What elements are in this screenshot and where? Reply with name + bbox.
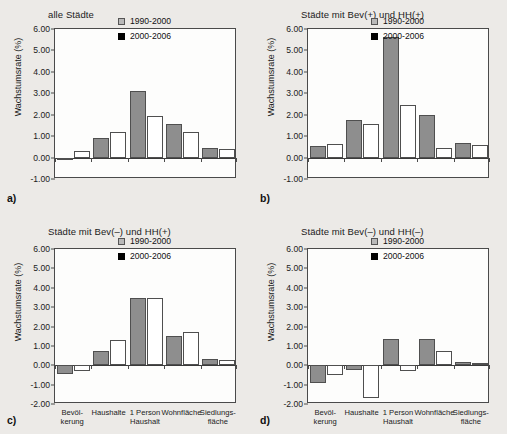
- y-tick-mark: [304, 249, 308, 250]
- bar-d-2-series1: [400, 365, 416, 371]
- x-tick-mark: [236, 158, 237, 162]
- y-tick-label: 3.00: [33, 302, 50, 312]
- y-tick-label: 6.00: [286, 24, 303, 34]
- y-tick-mark: [51, 307, 55, 308]
- y-axis-label-d: Wachstumsrate (%): [266, 242, 276, 362]
- y-tick-mark: [304, 307, 308, 308]
- legend-item-1: 2000-2006: [118, 251, 171, 261]
- y-tick-label: 2.00: [33, 110, 50, 120]
- legend-swatch-icon-0: [118, 238, 125, 245]
- legend-swatch-icon-1: [371, 33, 378, 40]
- chart-panel-a: alle Städtea)Wachstumsrate (%)6.005.004.…: [0, 0, 253, 217]
- y-tick-label: 2.00: [33, 322, 50, 332]
- y-tick-label: 1.00: [33, 341, 50, 351]
- y-tick-mark: [304, 287, 308, 288]
- y-axis-label-a: Wachstumsrate (%): [13, 17, 23, 137]
- x-tick-mark: [381, 365, 382, 369]
- legend-item-0: 1990-2000: [371, 16, 424, 26]
- y-tick-label: -1.00: [283, 380, 303, 390]
- y-tick-label: 3.00: [286, 302, 303, 312]
- bar-d-0-series1: [327, 365, 343, 375]
- y-tick-label: -1.00: [30, 380, 50, 390]
- y-tick-mark: [51, 249, 55, 250]
- bar-d-3-series1: [436, 351, 452, 365]
- bar-c-3-series0: [166, 336, 182, 365]
- y-tick-mark: [51, 93, 55, 94]
- legend-swatch-icon-1: [118, 253, 125, 260]
- y-tick-label: 5.00: [33, 263, 50, 273]
- bar-c-0-series0: [57, 365, 73, 374]
- y-tick-label: -1.00: [283, 174, 303, 184]
- legend-swatch-icon-0: [118, 18, 125, 25]
- bar-a-2-series0: [130, 91, 146, 158]
- figure-panel-grid: alle Städtea)Wachstumsrate (%)6.005.004.…: [0, 0, 507, 434]
- y-tick-mark: [304, 114, 308, 115]
- legend-item-1: 2000-2006: [118, 31, 171, 41]
- y-tick-mark: [51, 50, 55, 51]
- y-tick-mark: [51, 71, 55, 72]
- y-tick-mark: [304, 50, 308, 51]
- y-tick-mark: [51, 114, 55, 115]
- legend-label-0: 1990-2000: [130, 236, 171, 246]
- y-tick-label: 5.00: [286, 45, 303, 55]
- x-tick-mark: [128, 158, 129, 162]
- y-tick-mark: [304, 93, 308, 94]
- y-tick-mark: [304, 326, 308, 327]
- y-tick-label: 6.00: [33, 24, 50, 34]
- y-tick-label: -2.00: [283, 399, 303, 409]
- x-tick-mark: [55, 158, 56, 162]
- bar-d-4-series0: [455, 362, 471, 365]
- y-tick-label: 4.00: [33, 283, 50, 293]
- y-tick-mark: [51, 345, 55, 346]
- y-tick-mark: [304, 71, 308, 72]
- bar-a-3-series1: [183, 132, 199, 158]
- x-tick-mark: [454, 158, 455, 162]
- legend-label-1: 2000-2006: [130, 31, 171, 41]
- legend-swatch-icon-0: [371, 238, 378, 245]
- y-tick-label: -2.00: [30, 399, 50, 409]
- bar-c-4-series0: [202, 359, 218, 365]
- bar-b-4-series1: [472, 145, 488, 157]
- legend-item-0: 1990-2000: [371, 236, 424, 246]
- y-tick-mark: [304, 179, 308, 180]
- bar-a-2-series1: [147, 116, 163, 158]
- y-tick-label: 1.00: [286, 341, 303, 351]
- legend-item-0: 1990-2000: [118, 16, 171, 26]
- x-tick-mark: [308, 158, 309, 162]
- bar-b-3-series0: [419, 115, 435, 157]
- x-category-label-4: Siedlungs- fläche: [196, 408, 240, 426]
- x-tick-mark: [128, 365, 129, 369]
- legend-swatch-icon-0: [371, 18, 378, 25]
- legend-item-1: 2000-2006: [371, 251, 424, 261]
- y-tick-label: 3.00: [286, 88, 303, 98]
- legend-swatch-icon-1: [118, 33, 125, 40]
- bar-b-2-series0: [383, 37, 399, 158]
- x-tick-mark: [417, 365, 418, 369]
- y-tick-label: 6.00: [286, 244, 303, 254]
- legend-label-0: 1990-2000: [383, 236, 424, 246]
- y-tick-label: 2.00: [286, 110, 303, 120]
- bar-d-0-series0: [310, 365, 326, 382]
- y-tick-mark: [51, 29, 55, 30]
- x-tick-mark: [164, 158, 165, 162]
- y-tick-label: 0.00: [286, 360, 303, 370]
- bar-a-0-series1: [74, 151, 90, 158]
- y-tick-label: 1.00: [33, 131, 50, 141]
- zero-baseline: [55, 158, 235, 159]
- x-category-label-4: Siedlungs- fläche: [449, 408, 493, 426]
- bar-b-0-series0: [310, 146, 326, 157]
- chart-panel-c: Städte mit Bev(–) und HH(+)c)Wachstumsra…: [0, 217, 253, 434]
- bar-c-2-series1: [147, 298, 163, 365]
- bar-c-2-series0: [130, 298, 146, 365]
- legend-item-0: 1990-2000: [118, 236, 171, 246]
- bar-d-1-series1: [363, 365, 379, 398]
- y-tick-mark: [51, 326, 55, 327]
- plot-area-a: 6.005.004.003.002.001.000.00-1.00: [54, 28, 236, 178]
- bar-a-1-series1: [110, 132, 126, 158]
- bar-d-3-series0: [419, 339, 435, 365]
- chart-panel-d: Städte mit Bev(–) und HH(–)d)Wachstumsra…: [253, 217, 506, 434]
- bar-a-4-series0: [202, 148, 218, 158]
- bar-b-1-series1: [363, 124, 379, 158]
- bar-b-1-series0: [346, 120, 362, 158]
- y-tick-mark: [304, 268, 308, 269]
